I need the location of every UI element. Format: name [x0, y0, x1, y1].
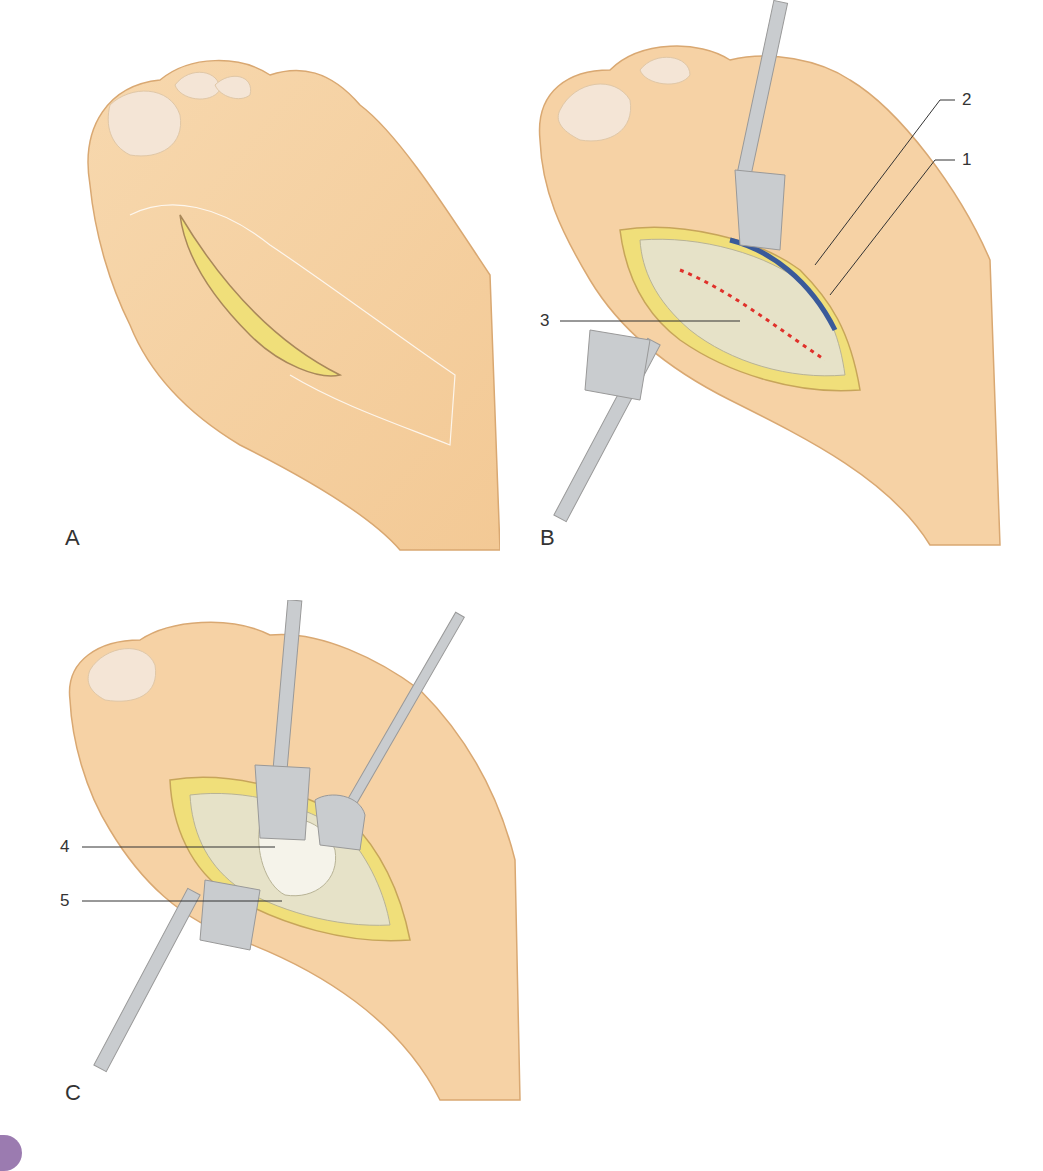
panel-b: 2 1 3 B	[530, 0, 1010, 555]
page-tab-marker	[0, 1135, 22, 1171]
callout-3: 3	[540, 311, 549, 331]
callout-5: 5	[60, 891, 69, 911]
panel-letter-b: B	[540, 525, 555, 551]
panel-letter-a: A	[65, 525, 80, 551]
callout-4: 4	[60, 837, 69, 857]
callout-2: 2	[962, 90, 971, 110]
foot-illustration-c	[60, 600, 530, 1110]
callout-1: 1	[962, 150, 971, 170]
panel-letter-c: C	[65, 1080, 81, 1106]
foot-illustration-a	[70, 45, 500, 555]
foot-illustration-b	[530, 0, 1010, 555]
panel-c: 4 5 C	[60, 600, 530, 1110]
panel-a: A	[70, 45, 500, 555]
